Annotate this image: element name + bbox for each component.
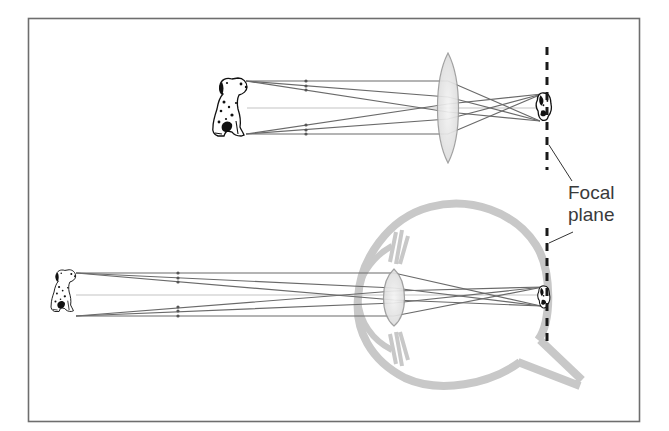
eye-lens xyxy=(384,269,405,326)
convex-lens xyxy=(438,53,459,163)
iris-upper xyxy=(390,230,408,264)
lens-panel xyxy=(213,47,572,181)
object-dog-top xyxy=(213,78,247,136)
object-dog-bottom xyxy=(51,270,76,312)
focal-plane-label-line2: plane xyxy=(568,204,615,226)
optic-nerve xyxy=(518,340,582,386)
focal-plane-leader-bottom xyxy=(549,232,573,243)
focal-plane-label: Focal plane xyxy=(568,182,615,226)
rays-from-head xyxy=(246,81,540,121)
eye-rays-from-paws xyxy=(76,287,543,316)
eye-panel xyxy=(51,204,582,386)
rays-from-paws xyxy=(246,94,542,134)
focal-plane-label-line1: Focal xyxy=(568,182,615,204)
focal-plane-leader-top xyxy=(549,145,572,181)
iris-lower xyxy=(390,332,408,366)
